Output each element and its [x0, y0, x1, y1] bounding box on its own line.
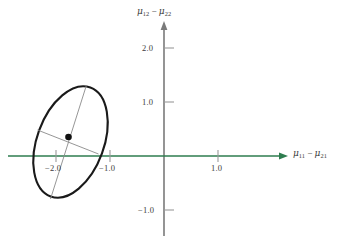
x-axis-title: μ11 − μ21: [293, 148, 327, 158]
x-tick-label-neg1: −1.0: [99, 163, 115, 173]
x-tick-label-pos1: 1.0: [211, 163, 222, 173]
minor-axis-segment: [38, 130, 99, 154]
confidence-ellipse: [19, 76, 122, 208]
horizontal-axis: [8, 153, 288, 160]
x-tick-label-neg2: −2.0: [45, 163, 61, 173]
y-tick-label-pos1: 1.0: [142, 97, 153, 107]
y-tick-label-pos2: 2.0: [142, 43, 153, 53]
chart-figure: μ12 − μ22 μ11 − μ21 −2.0 −1.0 1.0 2.0 1.…: [0, 0, 339, 244]
center-point: [65, 134, 72, 141]
plot-canvas: [0, 0, 339, 244]
y-axis-ticks: [164, 48, 174, 210]
y-tick-label-neg1: −1.0: [138, 205, 154, 215]
y-axis-title: μ12 − μ22: [137, 6, 171, 16]
vertical-axis: [161, 21, 168, 236]
confidence-ellipse-group: [19, 76, 122, 208]
